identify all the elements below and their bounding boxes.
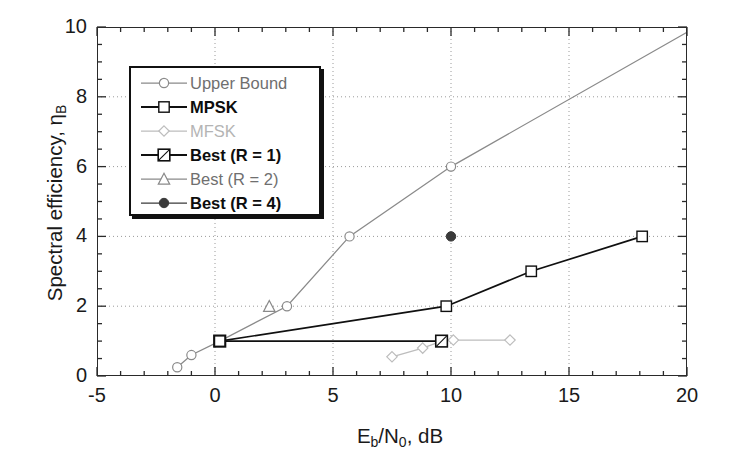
x-axis-tick-label: 15 — [545, 385, 593, 405]
legend-sample-svg — [138, 96, 190, 118]
legend-item-best-r-4[interactable]: Best (R = 4) — [131, 191, 319, 215]
x-axis-title-subscript-0: 0 — [399, 434, 407, 450]
marker-circle-open — [159, 78, 168, 87]
legend-item-label: Best (R = 4) — [190, 192, 281, 214]
x-axis-tick-label: 0 — [191, 385, 239, 405]
x-axis-title-tail: , dB — [407, 424, 443, 447]
legend-item-best-r-1[interactable]: Best (R = 1) — [131, 143, 319, 167]
chart-figure: -5051015200246810 Spectral efficiency, η… — [0, 0, 734, 465]
legend-item-mpsk[interactable]: MPSK — [131, 95, 319, 119]
legend-marker-sample — [138, 192, 190, 214]
legend-sample-svg — [138, 192, 190, 214]
y-axis-tick-label: 10 — [47, 16, 87, 36]
x-axis-title-mid: /N — [378, 424, 399, 447]
legend-marker-sample — [138, 96, 190, 118]
y-axis-title-main: Spectral efficiency, η — [43, 114, 66, 301]
x-axis-tick-label: 10 — [427, 385, 475, 405]
x-axis-title: Eb/N0, dB — [320, 424, 480, 450]
legend-marker-sample — [138, 72, 190, 94]
y-axis-title: Spectral efficiency, ηB — [43, 43, 69, 363]
marker-circle-filled — [159, 198, 168, 207]
y-axis-title-subscript: B — [53, 105, 69, 114]
x-axis-tick-label: 20 — [663, 385, 711, 405]
x-axis-tick-label: 5 — [309, 385, 357, 405]
legend-item-label: Best (R = 1) — [190, 144, 281, 166]
legend-item-label: Best (R = 2) — [190, 168, 279, 190]
legend-sample-svg — [138, 144, 190, 166]
chart-legend: Upper BoundMPSKMFSKBest (R = 1)Best (R =… — [129, 66, 321, 216]
x-axis-title-main: E — [357, 424, 371, 447]
legend-marker-sample — [138, 120, 190, 142]
y-axis-tick-label: 0 — [47, 365, 87, 385]
legend-item-best-r-2[interactable]: Best (R = 2) — [131, 167, 319, 191]
legend-sample-svg — [138, 168, 190, 190]
legend-sample-svg — [138, 72, 190, 94]
legend-marker-sample — [138, 144, 190, 166]
legend-marker-sample — [138, 168, 190, 190]
legend-item-mfsk[interactable]: MFSK — [131, 119, 319, 143]
legend-item-upper-bound[interactable]: Upper Bound — [131, 71, 319, 95]
legend-item-label: MPSK — [190, 96, 238, 118]
marker-diamond-open — [159, 126, 169, 136]
legend-item-label: Upper Bound — [190, 72, 287, 94]
legend-sample-svg — [138, 120, 190, 142]
legend-item-label: MFSK — [190, 120, 236, 142]
x-axis-tick-label: -5 — [73, 385, 121, 405]
marker-square-open — [159, 102, 169, 112]
